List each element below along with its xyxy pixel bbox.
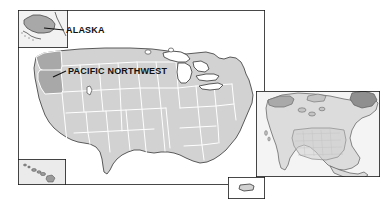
hawaii-inset-panel bbox=[18, 159, 66, 185]
map-figure: ALASKA PACIFIC NORTHWEST bbox=[0, 0, 382, 206]
territory-landmass bbox=[239, 184, 254, 191]
territory-inset-panel bbox=[228, 177, 265, 199]
locator-us-outline bbox=[292, 128, 346, 160]
label-alaska: ALASKA bbox=[66, 26, 105, 35]
map-canvas bbox=[0, 0, 382, 206]
alaska-inset-panel bbox=[18, 10, 68, 48]
label-pacific-northwest: PACIFIC NORTHWEST bbox=[68, 67, 167, 76]
locator-map-panel bbox=[256, 91, 380, 179]
